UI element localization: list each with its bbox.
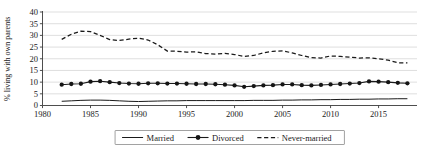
data-point-marker [396,81,400,85]
y-tick-label: 5 [34,89,38,99]
data-point-marker [156,81,160,85]
data-point-marker [357,81,361,85]
data-point-marker [108,80,112,84]
legend-swatch-marker [196,135,201,140]
chart-legend: MarriedDivorcedNever-married [115,131,344,145]
data-point-marker [405,81,409,85]
x-tick-label: 2015 [370,109,387,119]
data-point-marker [117,81,121,85]
data-point-marker [319,83,323,87]
data-point-marker [204,82,208,86]
data-point-marker [348,81,352,85]
legend-label: Married [147,133,175,143]
data-point-marker [79,82,83,86]
y-tick-label: 15 [30,65,39,75]
data-point-marker [146,81,150,85]
data-point-marker [271,83,275,87]
y-tick-label: 40 [30,7,39,17]
data-point-marker [328,82,332,86]
legend-label: Divorced [212,133,244,143]
line-chart: 0510152025303540 19801985199019952000200… [0,0,428,151]
data-point-marker [127,81,131,85]
data-point-marker [252,84,256,88]
y-tick-label: 35 [30,19,39,29]
y-axis-ticks: 0510152025303540 [30,7,43,111]
data-point-marker [280,82,284,86]
data-point-marker [376,80,380,84]
data-point-marker [98,79,102,83]
data-point-marker [213,82,217,86]
series-line-married [62,99,408,102]
x-tick-label: 2010 [322,109,339,119]
data-point-marker [136,82,140,86]
x-tick-label: 2005 [274,109,291,119]
data-point-marker [367,79,371,83]
data-point-marker [184,82,188,86]
data-point-marker [69,82,73,86]
y-tick-label: 10 [30,77,39,87]
data-point-marker [261,83,265,87]
legend-label: Never-married [282,133,333,143]
x-tick-label: 1990 [130,109,147,119]
data-series [60,31,410,101]
data-point-marker [175,81,179,85]
y-tick-label: 30 [30,30,39,40]
data-point-marker [88,80,92,84]
data-point-marker [290,82,294,86]
y-tick-label: 25 [30,42,39,52]
chart-canvas: 0510152025303540 19801985199019952000200… [0,0,428,151]
data-point-marker [338,82,342,86]
x-tick-label: 2000 [226,109,243,119]
data-point-marker [223,83,227,87]
data-point-marker [300,83,304,87]
data-point-marker [242,85,246,89]
x-tick-label: 1980 [34,109,51,119]
data-point-marker [309,83,313,87]
y-tick-label: 20 [30,54,39,64]
x-axis-ticks: 19801985199019952000200520102015 [34,106,387,120]
y-axis-title: % living with own parents [3,17,12,101]
data-point-marker [60,83,64,87]
data-point-marker [194,82,198,86]
data-point-marker [232,83,236,87]
x-tick-label: 1985 [82,109,99,119]
data-point-marker [386,80,390,84]
data-point-marker [165,81,169,85]
x-tick-label: 1995 [178,109,195,119]
